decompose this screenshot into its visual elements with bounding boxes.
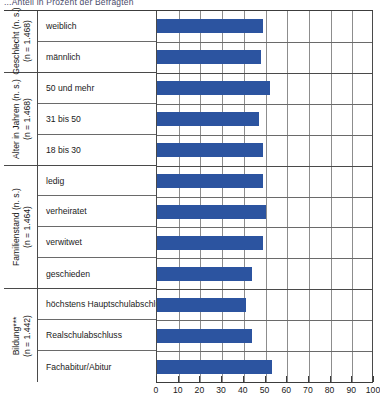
group-separator [157, 166, 372, 167]
x-tick-30 [221, 376, 222, 382]
x-tick-label-60: 60 [281, 385, 291, 395]
x-tick-80 [330, 376, 331, 382]
x-tick-label-50: 50 [260, 385, 270, 395]
group-title-line1: Familienstand (n. s.) [10, 188, 20, 266]
x-tick-label-70: 70 [303, 385, 313, 395]
x-tick-label-80: 80 [325, 385, 335, 395]
group-title: Geschlecht (n. s.)(n = 1.468) [10, 8, 31, 75]
group-separator [157, 289, 372, 290]
bar [157, 298, 246, 312]
bar [157, 19, 263, 33]
bar [157, 174, 263, 188]
category-label: geschieden [38, 258, 156, 289]
x-tick-0 [156, 376, 157, 382]
row-separator [157, 197, 372, 198]
x-tick-60 [286, 376, 287, 382]
x-tick-100 [373, 376, 374, 382]
bar [157, 267, 252, 281]
bar [157, 360, 272, 374]
category-label: ledig [38, 166, 156, 197]
x-tick-90 [351, 376, 352, 382]
x-axis-line [156, 382, 373, 383]
category-label: höchstens Hauptschulabschluss [38, 289, 156, 320]
group-axis-label: Geschlecht (n. s.)(n = 1.468) [4, 11, 38, 72]
group-axis-label: Bildung***(n = 1.442) [4, 289, 38, 382]
group-title: Alter in Jahren (n. s.)(n = 1.468) [10, 79, 31, 159]
category-label: Fachabitur/Abitur [38, 351, 156, 382]
group-2: Alter in Jahren (n. s.)(n = 1.468)50 und… [4, 73, 156, 166]
bar [157, 143, 263, 157]
row-separator [157, 351, 372, 352]
category-label: 18 bis 30 [38, 135, 156, 166]
category-label-column: Geschlecht (n. s.)(n = 1.468)weiblichmän… [4, 11, 156, 382]
bar [157, 81, 270, 95]
group-3: Familienstand (n. s.)(n = 1.464)ledigver… [4, 166, 156, 290]
row-separator [157, 42, 372, 43]
group-axis-label: Alter in Jahren (n. s.)(n = 1.468) [4, 73, 38, 165]
group-4: Bildung***(n = 1.442)höchstens Hauptschu… [4, 289, 156, 382]
group-categories: weiblichmännlich [38, 11, 156, 72]
group-1: Geschlecht (n. s.)(n = 1.468)weiblichmän… [4, 11, 156, 73]
group-title-line1: Geschlecht (n. s.) [10, 8, 20, 75]
bar [157, 50, 261, 64]
row-separator [157, 104, 372, 105]
group-title-line1: Bildung*** [10, 316, 20, 355]
category-label: 50 und mehr [38, 73, 156, 104]
category-label: männlich [38, 42, 156, 73]
x-tick-70 [308, 376, 309, 382]
x-tick-40 [243, 376, 244, 382]
group-title-line2: (n = 1.468) [21, 8, 32, 75]
row-separator [157, 227, 372, 228]
row-separator [157, 258, 372, 259]
x-tick-label-20: 20 [195, 385, 205, 395]
category-label: 31 bis 50 [38, 104, 156, 135]
group-separator [157, 73, 372, 74]
group-categories: höchstens HauptschulabschlussRealschulab… [38, 289, 156, 382]
x-tick-label-0: 0 [154, 385, 159, 395]
group-title: Bildung***(n = 1.442) [10, 315, 31, 357]
row-separator [157, 135, 372, 136]
bar [157, 112, 259, 126]
x-tick-10 [178, 376, 179, 382]
x-tick-label-10: 10 [173, 385, 183, 395]
plot-area [156, 11, 373, 382]
x-tick-20 [199, 376, 200, 382]
group-title-line2: (n = 1.442) [21, 315, 32, 357]
group-axis-label: Familienstand (n. s.)(n = 1.464) [4, 166, 38, 289]
category-label: weiblich [38, 11, 156, 42]
group-title: Familienstand (n. s.)(n = 1.464) [10, 188, 31, 266]
group-title-line2: (n = 1.464) [21, 188, 32, 266]
group-categories: ledigverheiratetverwitwetgeschieden [38, 166, 156, 289]
group-title-line2: (n = 1.468) [21, 79, 32, 159]
bar [157, 205, 266, 219]
category-label: verheiratet [38, 196, 156, 227]
category-label: verwitwet [38, 227, 156, 258]
row-separator [157, 320, 372, 321]
bar [157, 329, 252, 343]
category-label: Realschulabschluss [38, 320, 156, 351]
top-caption: ...Anteil in Prozent der Befragten [4, 0, 184, 7]
group-title-line1: Alter in Jahren (n. s.) [10, 79, 20, 159]
group-categories: 50 und mehr31 bis 5018 bis 30 [38, 73, 156, 165]
bar [157, 236, 263, 250]
x-tick-label-30: 30 [216, 385, 226, 395]
x-tick-label-90: 90 [347, 385, 357, 395]
x-tick-label-100: 100 [366, 385, 380, 395]
x-tick-label-40: 40 [238, 385, 248, 395]
x-tick-50 [265, 376, 266, 382]
